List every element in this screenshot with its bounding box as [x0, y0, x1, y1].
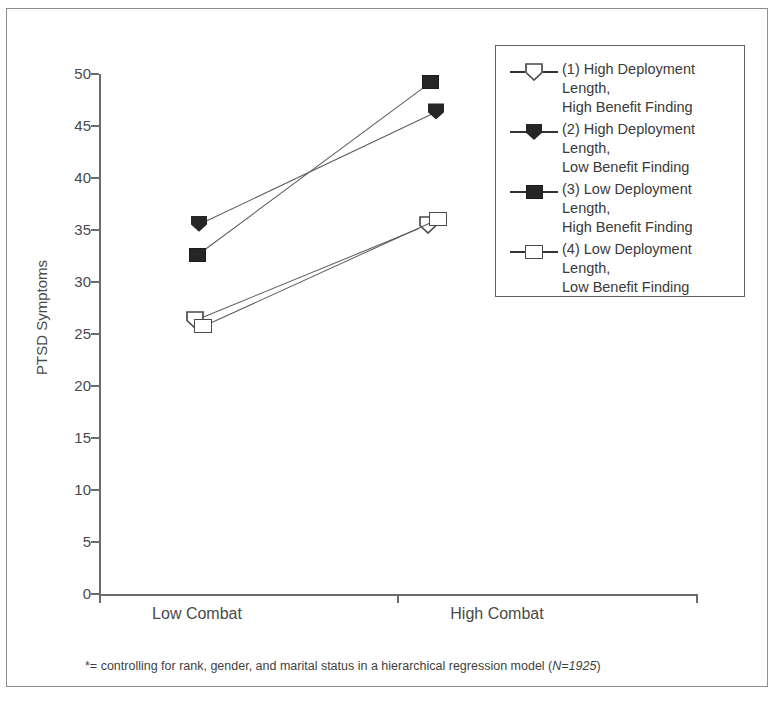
figure-frame: PTSD Symptoms 05101520253035404550 Low C… — [6, 8, 768, 687]
y-axis-title: PTSD Symptoms — [33, 238, 50, 398]
y-tick-label: 10 — [45, 482, 91, 496]
series-line — [199, 111, 437, 224]
y-tick-label: 15 — [45, 430, 91, 444]
legend-item[interactable]: (1) High Deployment Length, High Benefit… — [506, 60, 744, 117]
y-tick-label-text: 25 — [57, 326, 91, 341]
y-tick-label-text: 0 — [57, 586, 91, 601]
pentagon-filled-icon — [191, 216, 207, 232]
footnote: *= controlling for rank, gender, and mar… — [85, 659, 725, 673]
square-filled-icon — [526, 185, 543, 199]
y-tick-label-text: 50 — [57, 66, 91, 81]
y-tick-label: 30 — [45, 274, 91, 288]
x-category-low-combat: Low Combat — [107, 605, 287, 623]
square-open-icon — [194, 319, 212, 333]
y-tick — [91, 489, 99, 491]
legend-label: (1) High Deployment Length, High Benefit… — [562, 60, 744, 117]
legend-marker-sample — [506, 61, 562, 83]
footnote-sample-size: N=1925 — [552, 659, 596, 673]
series-line — [197, 82, 431, 256]
legend-marker-sample — [506, 241, 562, 263]
legend-marker-sample — [506, 121, 562, 143]
series-line — [203, 219, 438, 327]
square-filled-icon — [422, 75, 439, 89]
y-tick-label-text: 35 — [57, 222, 91, 237]
legend-item[interactable]: (2) High Deployment Length, Low Benefit … — [506, 120, 744, 177]
square-filled-icon — [189, 248, 206, 262]
y-tick-label: 35 — [45, 222, 91, 236]
y-tick-label-text: 15 — [57, 430, 91, 445]
square-open-icon — [525, 245, 543, 259]
y-tick — [91, 385, 99, 387]
y-tick-label: 20 — [45, 378, 91, 392]
y-tick — [91, 229, 99, 231]
y-tick-label: 25 — [45, 326, 91, 340]
y-tick — [91, 593, 99, 595]
y-tick — [91, 125, 99, 127]
y-tick-label-text: 40 — [57, 170, 91, 185]
y-tick-label: 45 — [45, 118, 91, 132]
y-tick-label: 50 — [45, 66, 91, 80]
footnote-suffix: ) — [596, 659, 600, 673]
legend-label: (3) Low Deployment Length, High Benefit … — [562, 180, 744, 237]
y-tick-label: 0 — [45, 586, 91, 600]
pentagon-filled-icon — [526, 124, 542, 140]
y-tick-label-text: 10 — [57, 482, 91, 497]
x-tick-middle — [397, 594, 399, 603]
y-tick — [91, 541, 99, 543]
y-tick-label-text: 45 — [57, 118, 91, 133]
plot-area: PTSD Symptoms 05101520253035404550 Low C… — [7, 9, 769, 688]
y-tick-label-text: 5 — [57, 534, 91, 549]
y-tick — [91, 177, 99, 179]
legend-item[interactable]: (4) Low Deployment Length, Low Benefit F… — [506, 240, 744, 297]
y-tick — [91, 333, 99, 335]
x-tick-start — [99, 594, 101, 603]
y-tick-label-text: 30 — [57, 274, 91, 289]
y-tick — [91, 281, 99, 283]
x-tick-end — [696, 594, 698, 603]
x-category-high-combat: High Combat — [407, 605, 587, 623]
legend-label: (4) Low Deployment Length, Low Benefit F… — [562, 240, 744, 297]
pentagon-filled-icon — [428, 103, 444, 119]
y-tick — [91, 437, 99, 439]
legend-box: (1) High Deployment Length, High Benefit… — [495, 45, 745, 297]
square-open-icon — [429, 212, 447, 226]
y-tick — [91, 73, 99, 75]
y-tick-label: 40 — [45, 170, 91, 184]
footnote-prefix: *= controlling for rank, gender, and mar… — [85, 659, 552, 673]
y-axis-line — [99, 74, 101, 595]
pentagon-open-icon — [525, 63, 543, 81]
y-tick-label: 5 — [45, 534, 91, 548]
y-tick-label-text: 20 — [57, 378, 91, 393]
legend-label: (2) High Deployment Length, Low Benefit … — [562, 120, 744, 177]
legend-item[interactable]: (3) Low Deployment Length, High Benefit … — [506, 180, 744, 237]
legend-marker-sample — [506, 181, 562, 203]
